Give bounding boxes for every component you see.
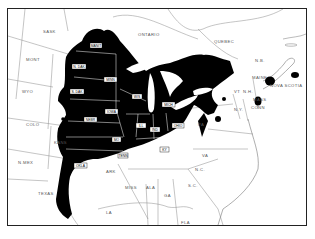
svg-text:MISS: MISS [125, 185, 137, 190]
svg-text:MAINE: MAINE [252, 75, 267, 80]
svg-text:IOWA: IOWA [107, 110, 117, 114]
range-map: SASK ONTARIO QUEBEC MONT WYO COLO KANS N… [7, 8, 307, 226]
svg-text:MINN: MINN [106, 78, 115, 82]
atlantic-coastline [218, 119, 258, 225]
svg-text:TENN: TENN [118, 154, 128, 158]
svg-text:N.H.: N.H. [243, 89, 253, 94]
svg-text:N.C.: N.C. [195, 167, 205, 172]
svg-text:OKLA: OKLA [76, 164, 86, 168]
svg-text:COLO: COLO [26, 122, 40, 127]
svg-text:CONN: CONN [251, 105, 265, 110]
svg-text:GA: GA [164, 193, 171, 198]
svg-text:MONT: MONT [26, 57, 40, 62]
svg-text:WIS: WIS [134, 95, 141, 99]
svg-text:ILL: ILL [139, 124, 144, 128]
map-canvas: SASK ONTARIO QUEBEC MONT WYO COLO KANS N… [8, 9, 306, 225]
svg-text:MO: MO [114, 138, 120, 142]
svg-text:NEBR: NEBR [86, 118, 96, 122]
svg-text:ONTARIO: ONTARIO [138, 32, 160, 37]
svg-text:MICH: MICH [164, 103, 173, 107]
svg-text:N. DAK: N. DAK [73, 65, 85, 69]
svg-text:MASS: MASS [253, 97, 266, 102]
svg-text:S.C.: S.C. [188, 183, 198, 188]
svg-text:N.Y.: N.Y. [234, 107, 243, 112]
svg-text:N.B.: N.B. [255, 58, 265, 63]
svg-text:PA: PA [198, 122, 204, 127]
svg-text:KANS: KANS [54, 140, 67, 145]
svg-text:S. DAK: S. DAK [71, 90, 83, 94]
svg-text:SASK: SASK [43, 29, 56, 34]
svg-text:KY: KY [162, 148, 167, 152]
svg-text:VT: VT [234, 89, 240, 94]
svg-text:QUEBEC: QUEBEC [214, 39, 234, 44]
svg-text:IND: IND [152, 128, 158, 132]
svg-text:ALA: ALA [146, 185, 155, 190]
svg-text:OHIO: OHIO [174, 124, 183, 128]
svg-text:FLA: FLA [181, 220, 190, 225]
svg-text:LA: LA [106, 210, 112, 215]
svg-text:VA: VA [202, 153, 208, 158]
svg-text:N.MEX: N.MEX [18, 160, 33, 165]
svg-text:WYO: WYO [22, 89, 34, 94]
svg-text:ARK: ARK [106, 169, 116, 174]
svg-text:TEXAS: TEXAS [38, 191, 54, 196]
svg-text:NOVA SCOTIA: NOVA SCOTIA [270, 83, 302, 88]
svg-text:MANIT: MANIT [91, 44, 102, 48]
